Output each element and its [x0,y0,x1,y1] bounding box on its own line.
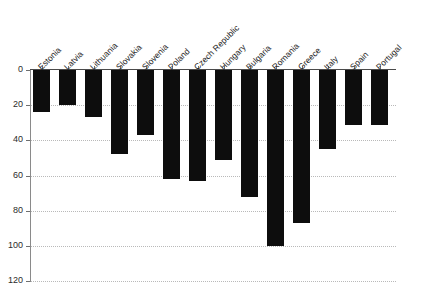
y-tick-label: 100 [0,241,23,250]
y-tick-label: 0 [0,65,23,74]
bar [59,70,76,105]
x-axis-label: Bulgaria [244,44,272,72]
bar [267,70,284,246]
bar [371,70,388,125]
bar [215,70,232,160]
y-tick-label: 40 [0,135,23,144]
x-axis-label: Lithuania [88,41,119,72]
bar [241,70,258,197]
y-tick-label: 80 [0,206,23,215]
bar [345,70,362,125]
y-tick-label: 60 [0,171,23,180]
x-axis-label: Romania [270,42,300,72]
gridline [30,140,396,141]
bar [85,70,102,117]
bar [163,70,180,179]
bar [33,70,50,112]
x-axis-label: Slovenia [140,43,169,72]
bar [189,70,206,181]
gridline [30,281,396,282]
bar [293,70,310,223]
gridline [30,176,396,177]
bar [137,70,154,135]
bar-chart: 020406080100120 EstoniaLatviaLithuaniaSl… [0,0,423,293]
bar [319,70,336,149]
y-tick-label: 120 [0,276,23,285]
gridline [30,246,396,247]
y-tick-label: 20 [0,100,23,109]
x-axis-label: Portugal [374,43,403,72]
bar [111,70,128,154]
gridline [30,211,396,212]
y-axis-line [30,69,31,282]
